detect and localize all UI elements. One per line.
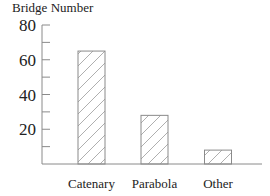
y-tick-label: 20 — [19, 120, 36, 139]
y-axis-title: Bridge Number — [12, 0, 94, 15]
y-tick-label: 40 — [19, 86, 36, 105]
bars — [78, 51, 232, 164]
x-tick-label: Other — [203, 176, 233, 191]
y-tick-labels: 20406080 — [19, 16, 36, 139]
y-tick-label: 80 — [19, 16, 36, 35]
y-tick-label: 60 — [19, 51, 36, 70]
bar-parabola — [141, 115, 168, 164]
x-tick-label: Parabola — [132, 176, 178, 191]
bar-other — [205, 150, 232, 164]
x-tick-labels: CatenaryParabolaOther — [68, 176, 233, 191]
bar-catenary — [78, 51, 105, 164]
x-tick-label: Catenary — [68, 176, 115, 191]
bar-chart: Bridge Number 20406080 CatenaryParabolaO… — [0, 0, 270, 196]
